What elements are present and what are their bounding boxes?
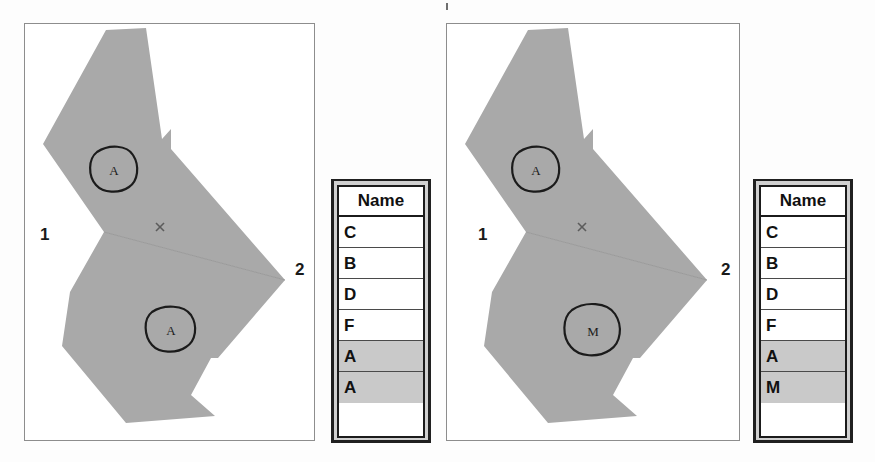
lower-parcel-annotation-text: A: [166, 323, 176, 338]
upper-parcel-polygon[interactable]: [43, 28, 285, 280]
lower-parcel-annotation-text: M: [587, 324, 599, 339]
table-row-selected[interactable]: A: [339, 372, 423, 403]
column-header-name: Name: [780, 191, 826, 211]
table-row[interactable]: C: [339, 217, 423, 248]
table-row[interactable]: C: [761, 217, 845, 248]
table-row-selected[interactable]: A: [339, 341, 423, 372]
table-body: C B D F A M: [761, 217, 845, 403]
table-header-row[interactable]: Name: [339, 187, 423, 217]
table-row[interactable]: B: [339, 248, 423, 279]
map-canvas-before[interactable]: A A: [24, 23, 315, 441]
panel-before: A A 1 2 Name C B D: [0, 0, 437, 462]
cell-name: B: [344, 255, 356, 272]
node-label-2: 2: [721, 261, 730, 278]
table-row-selected[interactable]: A: [761, 341, 845, 372]
table-row[interactable]: F: [761, 310, 845, 341]
cell-name: A: [766, 348, 778, 365]
table-row[interactable]: F: [339, 310, 423, 341]
table-row-selected[interactable]: M: [761, 372, 845, 403]
attribute-table-before[interactable]: Name C B D F A A: [331, 179, 431, 443]
panel-after: A M 1 2 Name C B D: [438, 0, 875, 462]
table-row[interactable]: D: [761, 279, 845, 310]
cell-name: M: [766, 379, 780, 396]
cell-name: B: [766, 255, 778, 272]
cell-name: C: [766, 224, 778, 241]
map-graphic-after: A M: [447, 24, 741, 442]
column-header-name: Name: [358, 191, 404, 211]
table-row[interactable]: B: [761, 248, 845, 279]
attribute-table-after[interactable]: Name C B D F A M: [753, 179, 853, 443]
cell-name: D: [766, 286, 778, 303]
upper-parcel-annotation-text: A: [531, 163, 541, 178]
map-canvas-after[interactable]: A M: [446, 23, 740, 441]
cell-name: C: [344, 224, 356, 241]
cell-name: A: [344, 379, 356, 396]
cell-name: F: [766, 317, 776, 334]
node-label-2: 2: [295, 261, 304, 278]
table-header-row[interactable]: Name: [761, 187, 845, 217]
upper-parcel-polygon[interactable]: [465, 28, 707, 280]
node-label-1: 1: [478, 226, 487, 243]
node-label-1: 1: [40, 226, 49, 243]
cell-name: F: [344, 317, 354, 334]
frame-tick-top: [446, 3, 448, 10]
map-graphic-before: A A: [25, 24, 316, 442]
upper-parcel-annotation-text: A: [109, 163, 119, 178]
cell-name: D: [344, 286, 356, 303]
table-row[interactable]: D: [339, 279, 423, 310]
cell-name: A: [344, 348, 356, 365]
table-body: C B D F A A: [339, 217, 423, 403]
